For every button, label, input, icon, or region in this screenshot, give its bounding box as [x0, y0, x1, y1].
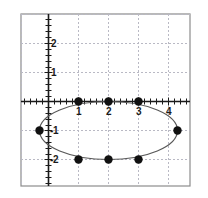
- data-point: [173, 126, 181, 134]
- y-tick-label-2: 2: [51, 39, 56, 49]
- x-tick-label-1: 1: [76, 107, 81, 117]
- data-point: [134, 97, 142, 105]
- x-tick-label-2: 2: [106, 107, 111, 117]
- data-point: [134, 155, 142, 163]
- x-tick-label-3: 3: [136, 107, 141, 117]
- data-point: [104, 155, 112, 163]
- data-point: [35, 126, 43, 134]
- chart-figure: 2 1 -1 -2 1 2 3 4: [0, 0, 208, 198]
- ellipse-scatter-plot: [0, 0, 208, 198]
- y-tick-label-1: 1: [51, 68, 56, 78]
- y-tick-label-neg2: -2: [50, 155, 58, 165]
- x-tick-label-4: 4: [166, 107, 171, 117]
- y-tick-label-neg1: -1: [50, 126, 58, 136]
- data-point: [104, 97, 112, 105]
- data-point: [74, 155, 82, 163]
- data-point: [74, 97, 82, 105]
